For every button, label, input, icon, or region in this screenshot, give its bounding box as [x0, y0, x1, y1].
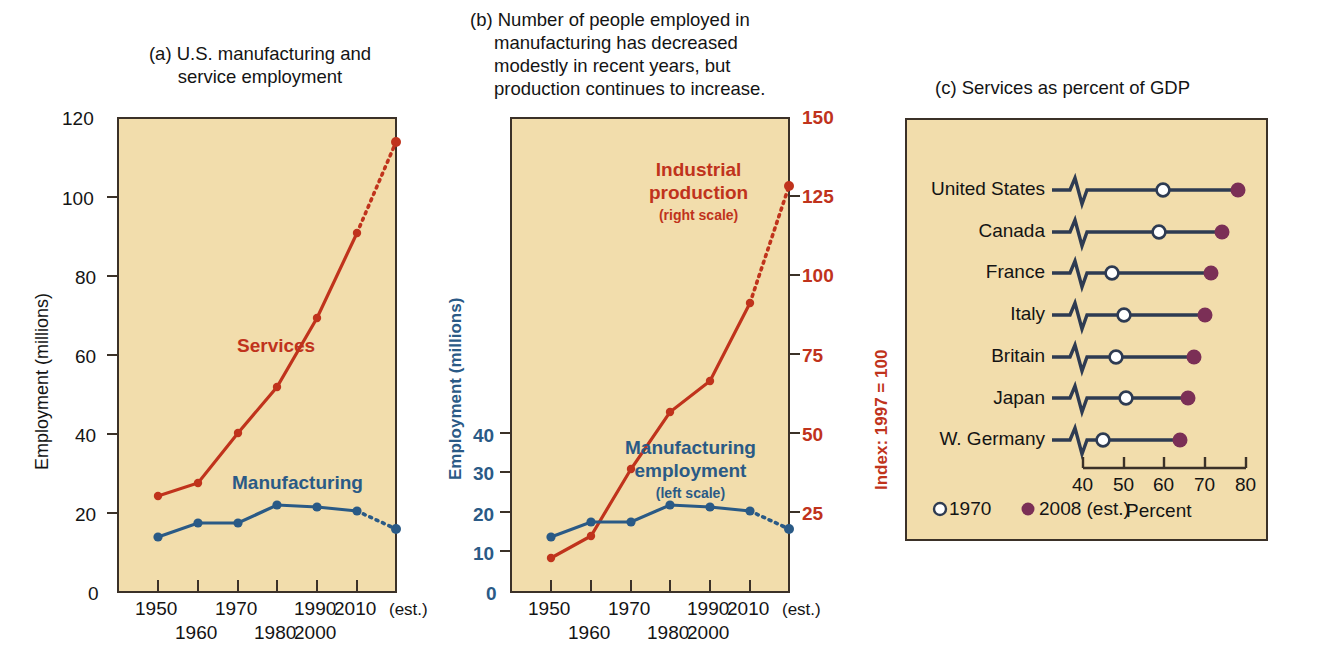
panel-c-xtick-50: 50: [1113, 474, 1134, 496]
panel-c-legend-label-2008: 2008 (est.): [1039, 498, 1130, 520]
panel-b-label-mfg-line2: employment: [625, 459, 756, 482]
panel-c-marker-2008: [1187, 350, 1202, 365]
series-services-line: [158, 233, 357, 496]
series-manufacturing-point: [391, 524, 401, 534]
panel-a-xtick-marks: [158, 580, 357, 593]
series-manufacturing-point: [312, 502, 321, 511]
panel-b-label-industrial-line3: (right scale): [649, 204, 748, 227]
panel-c-x-axis: [1083, 457, 1246, 468]
series-industrial-production-point: [784, 181, 794, 191]
panel-b-label-industrial-line1: Industrial: [649, 158, 748, 181]
panel-a-xtick-1970: 1970: [215, 598, 257, 620]
panel-c-legend-label-1970: 1970: [949, 498, 991, 520]
panel-b-ytick-marks-right: [789, 196, 800, 512]
panel-a-xnote: (est.): [389, 600, 428, 620]
panel-c-xtick-70: 70: [1194, 474, 1215, 496]
panel-c-marker-2008: [1215, 225, 1230, 240]
chart-panel-a: (a) U.S. manufacturing and service emplo…: [0, 0, 440, 655]
series-mfg-employment-point: [626, 517, 635, 526]
series-industrial-production-point: [746, 299, 754, 307]
series-industrial-production-point: [666, 408, 674, 416]
panel-c-marker-1970: [1110, 351, 1123, 364]
panel-c-marker-2008: [1204, 266, 1219, 281]
panel-c-legend-marker-1970: [934, 503, 946, 515]
panel-a-xtick-1990: 1990: [294, 598, 336, 620]
panel-c-xtick-40: 40: [1072, 474, 1093, 496]
series-industrial-production-point: [547, 554, 555, 562]
series-manufacturing-point: [352, 506, 361, 515]
series-mfg-employment-line: [551, 505, 750, 537]
panel-c-marker-1970: [1157, 184, 1170, 197]
panel-a-xtick-2000: 2000: [294, 622, 336, 644]
panel-c-marker-1970: [1118, 309, 1131, 322]
panel-c-row-france: [1052, 261, 1211, 287]
series-services-point: [353, 229, 361, 237]
panel-c-legend-marker-2008: [1022, 503, 1035, 516]
series-services-point: [154, 492, 162, 500]
panel-b-label-industrial-production: Industrial production (right scale): [649, 158, 748, 227]
panel-b-xtick-1980: 1980: [647, 622, 689, 644]
series-manufacturing-point: [272, 500, 281, 509]
panel-b-xtick-1950: 1950: [528, 598, 570, 620]
panel-b-xtick-1960: 1960: [568, 622, 610, 644]
panel-a-label-manufacturing: Manufacturing: [232, 472, 363, 494]
series-services-dashed: [357, 142, 396, 233]
series-manufacturing-point: [153, 532, 162, 541]
chart-panel-c: (c) Services as percent of GDP United St…: [880, 0, 1323, 655]
panel-b-xtick-1990: 1990: [687, 598, 729, 620]
panel-b-label-industrial-line2: production: [649, 181, 748, 204]
series-manufacturing-point: [233, 518, 242, 527]
panel-c-series-svg: [880, 0, 1323, 655]
series-manufacturing-point: [193, 518, 202, 527]
panel-b-xtick-1970: 1970: [608, 598, 650, 620]
series-manufacturing-dashed: [357, 511, 396, 529]
panel-c-marker-1970: [1153, 226, 1166, 239]
panel-b-xtick-2000: 2000: [687, 622, 729, 644]
panel-a-xtick-1960: 1960: [175, 622, 217, 644]
series-services-point: [391, 137, 401, 147]
panel-c-marker-2008: [1181, 391, 1196, 406]
series-mfg-employment-point: [586, 517, 595, 526]
series-industrial-production-dashed: [750, 186, 789, 303]
panel-a-xtick-1950: 1950: [135, 598, 177, 620]
panel-b-label-mfg-line1: Manufacturing: [625, 436, 756, 459]
series-services-point: [313, 314, 321, 322]
panel-b-label-mfg-employment: Manufacturing employment (left scale): [625, 436, 756, 505]
panel-c-marker-2008: [1198, 308, 1213, 323]
panel-c-row-canada: [1052, 220, 1222, 246]
series-mfg-employment-dashed: [750, 511, 789, 529]
panel-c-xtick-80: 80: [1235, 474, 1256, 496]
series-services-point: [234, 429, 242, 437]
panel-b-xtick-marks: [551, 580, 750, 593]
series-services-point: [273, 383, 281, 391]
series-mfg-employment-point: [745, 506, 754, 515]
panel-c-marker-2008: [1231, 183, 1246, 198]
series-manufacturing-line: [158, 505, 357, 537]
panel-c-marker-1970: [1097, 434, 1110, 447]
panel-c-xtick-60: 60: [1153, 474, 1174, 496]
panel-c-marker-2008: [1173, 433, 1188, 448]
chart-panel-b: (b) Number of people employed in manufac…: [440, 0, 900, 655]
panel-c-x-axis-label: Percent: [1126, 500, 1191, 522]
panel-a-series-svg: [0, 0, 440, 655]
series-industrial-production-line: [551, 303, 750, 558]
series-mfg-employment-point: [784, 524, 794, 534]
series-industrial-production-point: [706, 377, 714, 385]
panel-b-xtick-2010: 2010: [727, 598, 769, 620]
panel-c-marker-1970: [1120, 392, 1133, 405]
series-services-point: [194, 479, 202, 487]
panel-c-row-w-germany: [1052, 428, 1180, 454]
panel-b-xnote: (est.): [782, 600, 821, 620]
panel-c-marker-1970: [1106, 267, 1119, 280]
panel-b-label-mfg-line3: (left scale): [625, 482, 756, 505]
panel-b-series-svg: [440, 0, 900, 655]
panel-c-row-united-states: [1052, 178, 1238, 204]
panel-a-label-services: Services: [237, 335, 315, 357]
series-mfg-employment-point: [546, 532, 555, 541]
panel-a-xtick-1980: 1980: [254, 622, 296, 644]
series-industrial-production-point: [587, 532, 595, 540]
panel-a-xtick-2010: 2010: [334, 598, 376, 620]
panel-b-ytick-marks-left: [500, 433, 511, 551]
